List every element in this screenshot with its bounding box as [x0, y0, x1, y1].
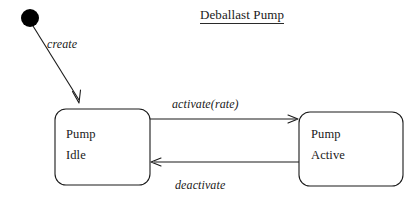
initial-state-circle[interactable]: [21, 9, 39, 27]
diagram-title: Deballast Pump: [200, 8, 284, 24]
state-label-pump-idle-line2: Idle: [66, 149, 86, 162]
transition-label-create: create: [47, 38, 77, 50]
transition-label-deactivate: deactivate: [175, 179, 225, 191]
state-diagram-canvas: Deballast Pump Pump Idle Pump Active cre…: [0, 0, 413, 202]
state-label-pump-idle-line1: Pump: [66, 128, 96, 141]
transition-label-activate: activate(rate): [172, 98, 239, 110]
state-box-pump-idle[interactable]: [55, 109, 150, 185]
state-label-pump-active-line1: Pump: [311, 128, 341, 141]
transition-deactivate[interactable]: [151, 158, 299, 166]
state-label-pump-active-line2: Active: [311, 149, 345, 162]
transition-activate[interactable]: [150, 115, 298, 123]
